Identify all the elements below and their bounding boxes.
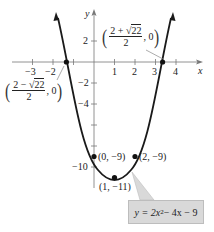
x-axis-label: x [198,66,202,76]
curve-arrow-left-icon [54,12,60,21]
left-root-label: ( 2 − √22 2 , 0 ) [4,79,64,102]
coord-suffix: , 0 [46,85,56,96]
y-axis-label: y [85,9,89,19]
equation-callout-pointer [132,172,154,200]
close-paren: ) [58,80,63,102]
y-tick-label: 2 [83,36,88,46]
y-tick-label: −10 [72,162,88,172]
point-label-2-neg9: (2, −9) [139,152,166,162]
x-tick-label: −2 [45,67,56,77]
open-paren: ( [102,26,107,48]
equation-prefix: y = 2x [135,207,161,218]
point-0-neg9 [91,154,96,159]
curve-arrow-right-icon [170,12,176,21]
point-2-neg9 [132,154,137,159]
equation-suffix: − 4x − 9 [164,207,198,218]
point-left-root [64,59,69,64]
fraction: 2 + √22 2 [109,25,142,48]
x-tick-label: −3 [25,67,36,77]
numerator: 2 − √22 [12,79,45,91]
point-right-root [160,59,165,64]
right-root-leader [146,50,163,59]
x-tick-label: 2 [132,67,137,77]
point-label-vertex: (1, −11) [99,182,131,192]
denominator: 2 [26,91,31,102]
numerator: 2 + √22 [109,25,142,37]
y-tick-label: −4 [78,99,89,109]
x-tick-label: 3 [152,67,157,77]
x-tick-label: 4 [173,67,178,77]
denominator: 2 [123,37,128,48]
coord-suffix: , 0 [143,31,153,42]
y-tick-label: −2 [78,78,89,88]
point-label-0-neg9: (0, −9) [98,152,125,162]
right-root-label: ( 2 + √22 2 , 0 ) [101,25,161,48]
point-vertex [112,175,117,180]
fraction: 2 − √22 2 [12,79,45,102]
open-paren: ( [5,80,10,102]
x-tick-label: 1 [112,67,117,77]
close-paren: ) [155,26,160,48]
equation-label: y = 2x2 − 4x − 9 [128,200,204,224]
